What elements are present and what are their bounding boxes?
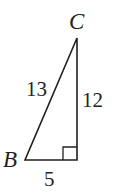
- side-label-hypotenuse: 13: [26, 77, 47, 101]
- right-angle-marker: [63, 147, 77, 160]
- triangle-diagram: C B 13 12 5: [0, 0, 114, 196]
- side-label-horizontal-leg: 5: [44, 167, 55, 191]
- vertex-label-b: B: [3, 147, 17, 172]
- side-label-vertical-leg: 12: [82, 88, 103, 112]
- vertex-label-c: C: [69, 9, 85, 34]
